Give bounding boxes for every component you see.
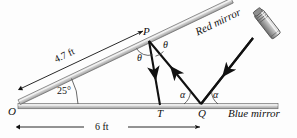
laser-pointer-icon <box>252 7 281 40</box>
dimension-line-slant <box>22 31 143 88</box>
point-label-O: O <box>8 106 16 117</box>
angle-label-25deg: 25° <box>57 86 71 96</box>
angle-label-alpha-right: α <box>213 90 218 100</box>
physics-diagram: O P T Q 25° θ θ α α Red mirror Blue mirr… <box>0 0 297 138</box>
red-mirror-bar <box>18 0 233 105</box>
point-label-P: P <box>143 26 150 37</box>
point-label-Q: Q <box>198 108 206 119</box>
angle-label-theta-lower: θ <box>137 53 142 63</box>
ray-source-to-Q-arrow <box>201 38 253 104</box>
point-label-T: T <box>157 108 163 119</box>
dimension-label-base: 6 ft <box>95 122 109 132</box>
ray-Q-to-P <box>149 41 201 104</box>
blue-mirror-label: Blue mirror <box>228 108 280 119</box>
angle-label-theta-upper: θ <box>163 40 168 50</box>
angle-arc-25 <box>72 79 79 105</box>
angle-label-alpha-left: α <box>180 90 185 100</box>
